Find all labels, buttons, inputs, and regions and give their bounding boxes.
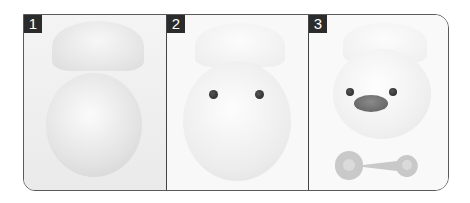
step-number-3: 3 [309, 15, 327, 33]
beak-icon [354, 95, 388, 112]
step-number-1: 1 [24, 15, 42, 33]
shell-top-illustration [52, 21, 144, 71]
panel-3: 3 [308, 15, 449, 190]
panel-2: 2 [166, 15, 308, 190]
right-eye-icon [389, 88, 397, 96]
left-eye-icon [209, 90, 218, 99]
egg-illustration [183, 61, 291, 181]
panel-1: 1 [24, 15, 166, 190]
diagram-frame: 1 2 3 [23, 14, 449, 191]
step-number-2: 2 [167, 15, 185, 33]
egg-illustration [46, 73, 142, 177]
wrench-tool-icon [325, 145, 435, 185]
left-eye-icon [346, 88, 354, 96]
right-eye-icon [255, 90, 264, 99]
